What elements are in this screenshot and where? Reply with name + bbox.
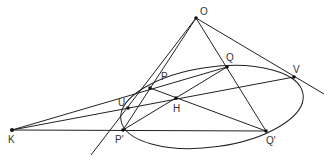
label-O: O — [200, 7, 208, 17]
label-K: K — [8, 135, 15, 145]
line-O-V-extended — [196, 18, 324, 94]
label-Qprime: Q' — [266, 136, 276, 146]
point-Pprime — [121, 128, 125, 132]
point-V — [292, 75, 296, 79]
label-V: V — [293, 65, 300, 75]
point-Qprime — [264, 129, 268, 133]
line-O-P-extended — [91, 18, 196, 155]
label-Q: Q — [226, 53, 234, 63]
point-U — [126, 106, 130, 110]
line-O-Pprime — [123, 18, 196, 130]
line-K-V — [12, 77, 294, 130]
point-O — [194, 16, 198, 20]
label-P: P — [161, 72, 168, 82]
label-Pprime: P' — [115, 135, 124, 145]
point-P — [148, 86, 152, 90]
point-K — [10, 128, 14, 132]
diagram-canvas: O Q V P U H K P' Q' — [0, 0, 331, 163]
point-Q — [225, 65, 229, 69]
point-H — [174, 96, 178, 100]
label-H: H — [173, 104, 180, 114]
line-O-Qprime — [196, 18, 266, 131]
line-P-Qprime — [150, 88, 266, 131]
label-U: U — [118, 98, 125, 108]
line-K-Qprime — [12, 130, 266, 131]
conic-ellipse — [115, 55, 308, 160]
